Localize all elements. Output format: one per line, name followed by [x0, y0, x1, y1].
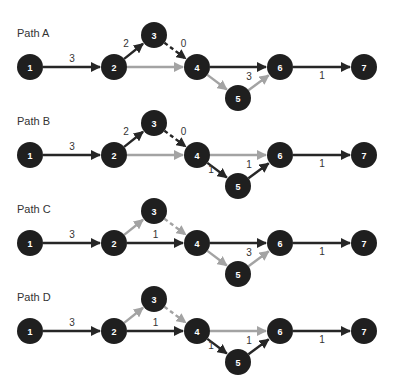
node-number: 2 [111, 151, 116, 161]
edge-weight-label: 3 [69, 229, 75, 240]
panels-root: Path A320311234567Path B3201111234567Pat… [17, 22, 377, 375]
edge-3-to-4 [164, 219, 185, 235]
node-number: 6 [277, 63, 282, 73]
node-number: 5 [235, 270, 240, 280]
edge-weight-label: 0 [181, 126, 187, 137]
node-6: 6 [267, 230, 293, 256]
node-6: 6 [267, 142, 293, 168]
node-5: 5 [225, 85, 251, 111]
node-1: 1 [17, 142, 43, 168]
node-1: 1 [17, 230, 43, 256]
node-2: 2 [101, 318, 127, 344]
node-number: 7 [361, 239, 366, 249]
node-number: 1 [27, 327, 32, 337]
edge-weight-label: 1 [208, 340, 214, 351]
edge-weight-label: 1 [319, 158, 325, 169]
node-number: 7 [361, 63, 366, 73]
node-number: 7 [361, 151, 366, 161]
edge-weight-label: 3 [69, 53, 75, 64]
node-4: 4 [184, 318, 210, 344]
node-number: 5 [235, 182, 240, 192]
node-number: 4 [194, 239, 199, 249]
panel-path-d: Path D311111234567 [17, 286, 377, 375]
node-4: 4 [184, 142, 210, 168]
node-number: 4 [194, 151, 199, 161]
node-number: 3 [151, 295, 156, 305]
edge-weight-label: 1 [153, 317, 159, 328]
node-number: 3 [151, 119, 156, 129]
node-4: 4 [184, 54, 210, 80]
node-6: 6 [267, 318, 293, 344]
edge-weight-label: 0 [181, 38, 187, 49]
node-1: 1 [17, 54, 43, 80]
node-7: 7 [351, 318, 377, 344]
node-7: 7 [351, 230, 377, 256]
path-comparison-diagram: Path A320311234567Path B3201111234567Pat… [0, 0, 396, 391]
node-number: 6 [277, 151, 282, 161]
edge-2-to-3 [124, 308, 143, 323]
edge-weight-label: 2 [123, 38, 129, 49]
node-number: 1 [27, 151, 32, 161]
edge-weight-label: 1 [319, 70, 325, 81]
node-number: 6 [277, 239, 282, 249]
edge-2-to-3 [124, 220, 143, 235]
node-number: 4 [194, 327, 199, 337]
edge-4-to-5 [207, 75, 226, 90]
node-5: 5 [225, 349, 251, 375]
node-2: 2 [101, 54, 127, 80]
node-number: 3 [151, 31, 156, 41]
node-number: 2 [111, 327, 116, 337]
node-number: 7 [361, 327, 366, 337]
node-number: 5 [235, 358, 240, 368]
node-number: 5 [235, 94, 240, 104]
edge-weight-label: 3 [246, 247, 252, 258]
node-3: 3 [141, 198, 167, 224]
edge-weight-label: 3 [69, 317, 75, 328]
panel-title: Path C [17, 203, 51, 215]
edge-weight-label: 1 [246, 335, 252, 346]
edge-weight-label: 1 [319, 334, 325, 345]
panel-title: Path B [17, 115, 50, 127]
node-7: 7 [351, 142, 377, 168]
edge-weight-label: 3 [69, 141, 75, 152]
node-number: 2 [111, 63, 116, 73]
node-number: 1 [27, 63, 32, 73]
node-1: 1 [17, 318, 43, 344]
node-3: 3 [141, 110, 167, 136]
panel-path-c: Path C31311234567 [17, 198, 377, 287]
node-number: 4 [194, 63, 199, 73]
node-3: 3 [141, 286, 167, 312]
edge-weight-label: 1 [246, 159, 252, 170]
node-number: 6 [277, 327, 282, 337]
node-3: 3 [141, 22, 167, 48]
panel-title: Path D [17, 291, 51, 303]
edge-weight-label: 1 [153, 229, 159, 240]
node-5: 5 [225, 173, 251, 199]
edge-3-to-4 [164, 307, 185, 323]
panel-path-a: Path A320311234567 [17, 22, 377, 111]
edge-weight-label: 2 [123, 126, 129, 137]
node-2: 2 [101, 230, 127, 256]
node-7: 7 [351, 54, 377, 80]
edge-weight-label: 3 [246, 71, 252, 82]
node-number: 1 [27, 239, 32, 249]
edge-weight-label: 1 [208, 164, 214, 175]
panel-title: Path A [17, 27, 50, 39]
panel-path-b: Path B3201111234567 [17, 110, 377, 199]
node-4: 4 [184, 230, 210, 256]
node-number: 3 [151, 207, 156, 217]
edge-weight-label: 1 [319, 246, 325, 257]
edge-4-to-5 [207, 251, 226, 266]
node-5: 5 [225, 261, 251, 287]
node-2: 2 [101, 142, 127, 168]
node-6: 6 [267, 54, 293, 80]
node-number: 2 [111, 239, 116, 249]
